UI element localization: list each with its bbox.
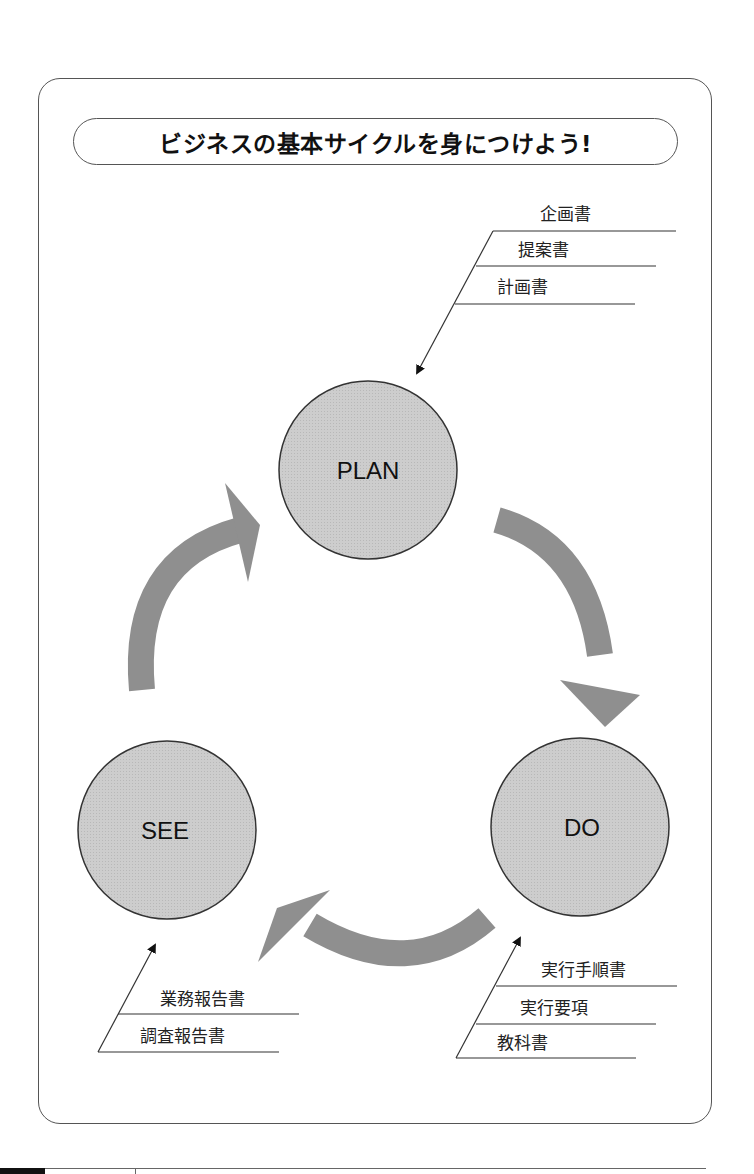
node-see: SEE	[78, 741, 256, 919]
node-see-label: SEE	[141, 817, 189, 844]
do-doc-1: 実行手順書	[541, 960, 626, 980]
node-do-label: DO	[564, 814, 600, 841]
plan-doc-2: 提案書	[518, 240, 569, 260]
do-doc-2: 実行要項	[520, 998, 588, 1018]
footer-rule	[0, 1168, 706, 1169]
arrow-do-to-see	[258, 890, 487, 962]
see-doc-2: 調査報告書	[140, 1026, 225, 1046]
node-do: DO	[491, 738, 669, 916]
see-documents: 業務報告書 調査報告書	[98, 945, 299, 1052]
footer-marker	[0, 1168, 45, 1174]
footer-divider	[135, 1168, 136, 1174]
node-plan: PLAN	[279, 381, 457, 559]
do-doc-3: 教科書	[497, 1033, 548, 1053]
plan-doc-3: 計画書	[497, 277, 548, 297]
node-plan-label: PLAN	[337, 457, 400, 484]
see-doc-1: 業務報告書	[160, 989, 245, 1009]
cycle-diagram: PLAN DO SEE 企画書 提案書 計画書 実行手順書 実行要項 教科書 業…	[0, 0, 754, 1174]
arrow-see-to-plan	[141, 483, 260, 690]
do-documents: 実行手順書 実行要項 教科書	[456, 938, 677, 1058]
arrow-plan-to-do	[497, 520, 640, 727]
plan-doc-1: 企画書	[540, 204, 591, 224]
plan-documents: 企画書 提案書 計画書	[417, 204, 676, 373]
